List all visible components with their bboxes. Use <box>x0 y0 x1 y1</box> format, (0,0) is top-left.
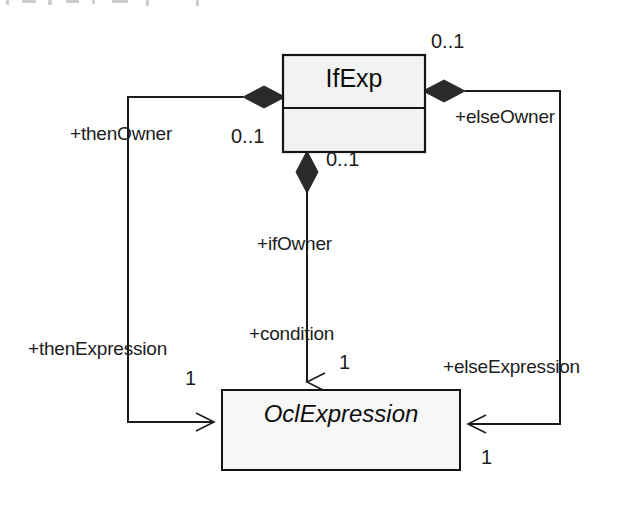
class-name-ifexp: IfExp <box>283 64 425 93</box>
multiplicity-if-owner: 0..1 <box>326 148 359 171</box>
role-label-then-owner: +thenOwner <box>70 123 172 145</box>
uml-diagram-canvas: IfExp OclExpression +thenOwner 0..1 +the… <box>0 0 640 507</box>
role-label-if-owner: +ifOwner <box>257 233 332 255</box>
role-label-else-owner: +elseOwner <box>455 106 555 128</box>
role-label-then-expression: +thenExpression <box>28 338 167 360</box>
multiplicity-else-owner: 0..1 <box>431 30 464 53</box>
else-composition-diamond <box>423 80 465 102</box>
multiplicity-then-owner: 0..1 <box>231 125 264 148</box>
multiplicity-then-expression: 1 <box>185 367 196 390</box>
class-name-oclexpression: OclExpression <box>222 400 460 428</box>
if-composition-diamond <box>296 151 318 193</box>
multiplicity-else-expression: 1 <box>481 446 492 469</box>
multiplicity-condition: 1 <box>339 351 350 374</box>
then-composition-diamond <box>243 86 285 108</box>
role-label-condition: +condition <box>249 323 334 345</box>
association-if <box>296 151 318 382</box>
role-label-else-expression: +elseExpression <box>443 356 580 378</box>
